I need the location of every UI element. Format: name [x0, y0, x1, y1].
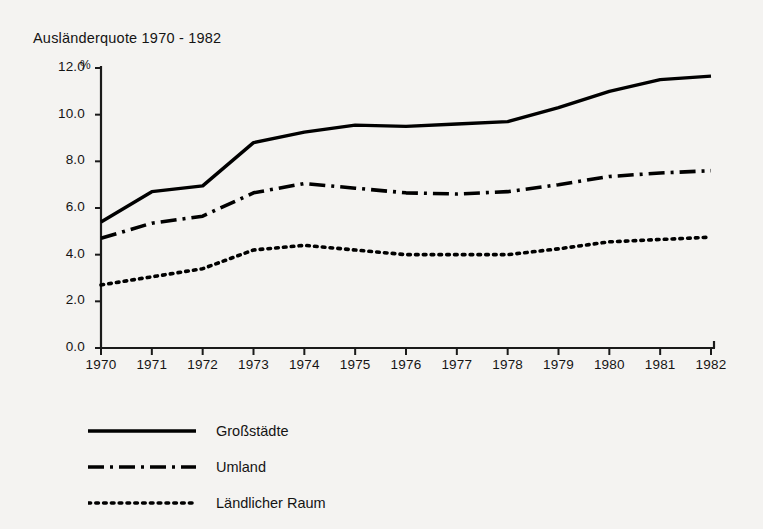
series-line-0 — [101, 76, 711, 222]
legend-line-sample — [88, 421, 196, 441]
y-axis-tick-label: 6.0 — [39, 199, 85, 214]
y-axis-tick-label: 0.0 — [39, 339, 85, 354]
y-axis-tick-label: 8.0 — [39, 152, 85, 167]
x-axis-tick-label: 1979 — [536, 357, 582, 372]
legend-item: Großstädte — [88, 413, 326, 449]
legend-sample-icon — [88, 421, 196, 441]
legend-sample-icon — [88, 493, 196, 513]
legend-item-label: Ländlicher Raum — [216, 495, 326, 511]
x-axis-tick-label: 1981 — [637, 357, 683, 372]
chart-legend: GroßstädteUmlandLändlicher Raum — [88, 413, 326, 521]
legend-line-sample — [88, 457, 196, 477]
x-axis-tick-label: 1974 — [281, 357, 327, 372]
x-axis-tick-label: 1980 — [586, 357, 632, 372]
y-axis-tick-label: 4.0 — [39, 246, 85, 261]
x-axis-tick-label: 1973 — [231, 357, 277, 372]
y-axis-tick-label: 2.0 — [39, 292, 85, 307]
y-axis-tick-label: 12.0 — [39, 59, 85, 74]
x-axis-tick-label: 1972 — [180, 357, 226, 372]
x-axis-tick-label: 1977 — [434, 357, 480, 372]
series-line-1 — [101, 171, 711, 239]
legend-sample-icon — [88, 457, 196, 477]
x-axis-tick-label: 1975 — [332, 357, 378, 372]
legend-line-sample — [88, 493, 196, 513]
series-line-2 — [101, 237, 711, 285]
x-axis-tick-label: 1976 — [383, 357, 429, 372]
y-axis-tick-label: 10.0 — [39, 106, 85, 121]
legend-item-label: Umland — [216, 459, 266, 475]
chart-figure: Ausländerquote 1970 - 1982 % 0.02.04.06.… — [0, 0, 763, 529]
legend-item: Umland — [88, 449, 326, 485]
x-axis-tick-label: 1971 — [129, 357, 175, 372]
x-axis-tick-label: 1970 — [78, 357, 124, 372]
legend-item: Ländlicher Raum — [88, 485, 326, 521]
x-axis-tick-label: 1978 — [485, 357, 531, 372]
legend-item-label: Großstädte — [216, 423, 289, 439]
x-axis-tick-label: 1982 — [688, 357, 734, 372]
